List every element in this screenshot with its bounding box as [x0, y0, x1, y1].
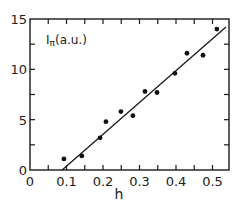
data-point: [143, 89, 148, 94]
x-tick-label: 0.5: [202, 174, 223, 189]
data-point: [173, 71, 178, 76]
data-point: [131, 113, 136, 118]
y-tick-label: 0: [19, 163, 27, 178]
data-point: [79, 154, 84, 159]
data-point: [185, 51, 190, 56]
y-tick-label: 10: [10, 62, 27, 77]
fit-line-segment: [62, 27, 226, 170]
scatter-chart: 00.10.20.30.40.5 051015 h Iπ(a.u.): [0, 0, 242, 207]
y-tick-labels: 051015: [10, 12, 27, 178]
x-tick-label: 0.1: [56, 174, 77, 189]
x-tick-labels: 00.10.20.30.40.5: [26, 174, 223, 189]
x-tick-label: 0.4: [166, 174, 187, 189]
data-point: [155, 90, 160, 95]
data-point: [98, 135, 103, 140]
data-point: [201, 53, 206, 58]
y-axis-title-unit: (a.u.): [55, 33, 87, 47]
data-point: [118, 109, 123, 114]
fit-line: [62, 27, 226, 170]
y-tick-label: 5: [19, 113, 27, 128]
data-point: [214, 27, 219, 32]
x-tick-label: 0.2: [93, 174, 114, 189]
x-tick-label: 0: [26, 174, 34, 189]
y-tick-label: 15: [10, 12, 27, 27]
y-axis-title: Iπ(a.u.): [46, 33, 87, 48]
data-point: [104, 119, 109, 124]
x-tick-label: 0.3: [129, 174, 150, 189]
x-axis-title: h: [115, 186, 124, 202]
data-point: [62, 157, 67, 162]
